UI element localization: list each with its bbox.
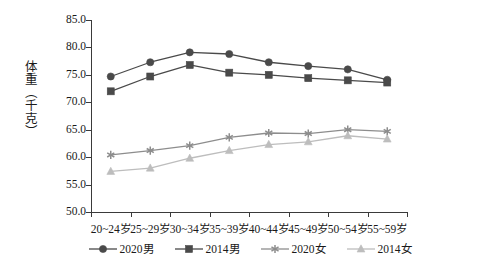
y-tick-label: 50.0	[40, 206, 86, 218]
series-2	[111, 65, 388, 91]
legend-marker-circle-icon	[88, 243, 118, 255]
legend-item-2014男[interactable]: 2014男	[174, 243, 240, 255]
x-tick	[289, 212, 290, 217]
x-tick-label: 55~59岁	[355, 222, 419, 236]
legend-marker-square-icon	[174, 243, 204, 255]
legend-label: 2020男	[120, 243, 154, 255]
y-tick	[86, 185, 91, 186]
series-1	[111, 52, 388, 79]
y-tick	[86, 102, 91, 103]
x-tick	[131, 212, 132, 217]
legend-item-2014女[interactable]: 2014女	[346, 243, 412, 255]
y-tick-label: 75.0	[40, 69, 86, 81]
legend-label: 2014男	[206, 243, 240, 255]
legend-item-2020女[interactable]: 2020女	[260, 243, 326, 255]
chart-legend: 2020男2014男2020女2014女	[0, 243, 499, 255]
y-tick	[86, 75, 91, 76]
y-tick-label: 65.0	[40, 124, 86, 136]
series-3-markers	[107, 126, 391, 159]
x-tick	[368, 212, 369, 217]
y-tick	[86, 20, 91, 21]
legend-marker-triangle-icon	[346, 243, 376, 255]
y-axis-title: 体重（千克）	[14, 60, 36, 138]
series-4	[111, 136, 388, 172]
series-4-markers	[107, 132, 391, 175]
series-2-markers	[107, 61, 391, 94]
legend-label: 2014女	[378, 243, 412, 255]
series-3	[111, 130, 388, 155]
y-tick-label: 60.0	[40, 151, 86, 163]
legend-marker-asterisk-icon	[260, 243, 290, 255]
x-tick	[210, 212, 211, 217]
y-tick-label: 70.0	[40, 96, 86, 108]
x-tick	[249, 212, 250, 217]
chart-container: 体重（千克） 50.055.060.065.070.075.080.085.0 …	[0, 0, 499, 276]
y-tick	[86, 130, 91, 131]
y-tick-label: 85.0	[40, 14, 86, 26]
y-axis-line	[91, 20, 92, 213]
y-tick	[86, 157, 91, 158]
x-tick	[91, 212, 92, 217]
legend-item-2020男[interactable]: 2020男	[88, 243, 154, 255]
x-tick	[407, 212, 408, 217]
series-1-markers	[107, 49, 391, 84]
y-tick-label: 55.0	[40, 179, 86, 191]
legend-label: 2020女	[292, 243, 326, 255]
x-tick	[170, 212, 171, 217]
y-tick-label: 80.0	[40, 41, 86, 53]
y-tick	[86, 47, 91, 48]
x-tick	[328, 212, 329, 217]
